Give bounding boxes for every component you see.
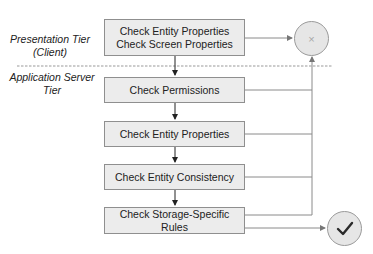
presentation-tier-label-line1: Presentation Tier xyxy=(2,33,98,46)
validation-flow-diagram: Presentation Tier (Client) Application S… xyxy=(0,0,373,254)
checkmark-icon xyxy=(336,221,354,237)
box-check-entity-consistency: Check Entity Consistency xyxy=(104,164,245,190)
box-label-line1: Check Entity Properties xyxy=(120,25,230,38)
box-check-storage-specific-rules: Check Storage-Specific Rules xyxy=(104,207,245,234)
success-outcome xyxy=(327,211,362,246)
box-label: Check Storage-Specific Rules xyxy=(105,208,244,234)
application-tier-label: Application Server Tier xyxy=(0,71,104,97)
box-check-entity-properties: Check Entity Properties xyxy=(104,121,245,147)
application-tier-label-line1: Application Server xyxy=(0,71,104,84)
x-icon: × xyxy=(308,33,314,45)
presentation-tier-label-line2: (Client) xyxy=(2,46,98,59)
application-tier-label-line2: Tier xyxy=(0,84,104,97)
box-check-permissions: Check Permissions xyxy=(104,77,245,103)
box-label-line2: Check Screen Properties xyxy=(116,38,233,51)
box-check-entity-screen-properties: Check Entity Properties Check Screen Pro… xyxy=(104,19,245,56)
box-label: Check Entity Properties xyxy=(120,128,230,141)
presentation-tier-label: Presentation Tier (Client) xyxy=(2,33,98,59)
failure-outcome: × xyxy=(294,21,329,56)
box-label: Check Entity Consistency xyxy=(115,171,234,184)
box-label: Check Permissions xyxy=(130,84,220,97)
